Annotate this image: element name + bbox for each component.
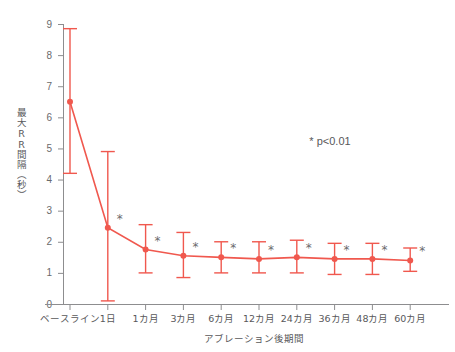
x-tick-label: 24カ月 [281, 313, 313, 324]
x-tick-label: 3カ月 [170, 313, 196, 324]
y-tick-label: 1 [46, 267, 52, 278]
significance-star: * [381, 243, 387, 257]
y-tick-label: 6 [46, 112, 52, 123]
x-tick-label: 1日 [100, 313, 116, 324]
data-point-marker [105, 225, 111, 231]
x-tick-label: 60カ月 [394, 313, 426, 324]
x-tick-label: 6カ月 [208, 313, 234, 324]
chart-plot-area: 0123456789 ********* ベースライン1日1カ月3カ月6カ月12… [0, 0, 455, 352]
chart-container: 最大RR間隔（秒） 0123456789 ********* ベースライン1日1… [0, 0, 455, 352]
significance-star: * [192, 240, 198, 254]
y-tick-label: 5 [46, 143, 52, 154]
data-point-marker [332, 256, 338, 262]
x-axis-title: アブレーション後期間 [204, 333, 304, 344]
y-tick-label: 2 [46, 236, 52, 247]
data-point-marker [67, 99, 73, 105]
data-series-line [70, 102, 410, 261]
y-tick-label: 3 [46, 205, 52, 216]
data-point-marker [369, 256, 375, 262]
y-tick-label: 4 [46, 174, 52, 185]
significance-markers: ********* [117, 212, 425, 259]
error-bars-group [63, 29, 417, 301]
data-point-markers [67, 99, 413, 264]
data-point-marker [143, 247, 149, 253]
significance-star: * [117, 212, 123, 226]
data-point-marker [218, 254, 224, 260]
x-tick-label: 12カ月 [243, 313, 275, 324]
data-point-marker [294, 254, 300, 260]
significance-star: * [419, 244, 425, 258]
x-axis-tick-labels: ベースライン1日1カ月3カ月6カ月12カ月24カ月36カ月48カ月60カ月 [40, 313, 426, 324]
significance-star: * [344, 243, 350, 257]
significance-star: * [268, 243, 274, 257]
significance-star: * [306, 241, 312, 255]
significance-star: * [230, 241, 236, 255]
x-tick-label: 36カ月 [319, 313, 351, 324]
y-tick-label: 8 [46, 50, 52, 61]
y-axis-ticks: 0123456789 [46, 19, 64, 310]
x-tick-label: 48カ月 [356, 313, 388, 324]
data-point-marker [180, 253, 186, 259]
significance-annotation: * p<0.01 [309, 135, 350, 147]
y-tick-label: 9 [46, 19, 52, 30]
data-point-marker [256, 256, 262, 262]
y-tick-label: 7 [46, 81, 52, 92]
x-tick-label: ベースライン [40, 313, 100, 324]
significance-star: * [155, 234, 161, 248]
x-tick-label: 1カ月 [133, 313, 159, 324]
data-point-marker [407, 257, 413, 263]
